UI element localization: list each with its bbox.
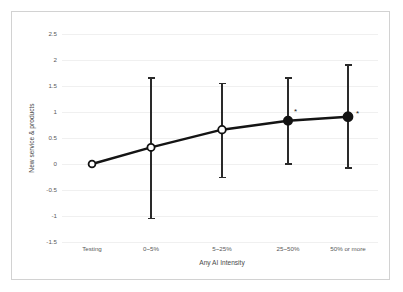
gridlines bbox=[62, 34, 378, 242]
y-tick-label: 0.5 bbox=[48, 134, 57, 141]
significance-asterisk: * bbox=[294, 107, 297, 116]
line-chart-plot: 2.5 2 1.5 1 0.5 0 -0.5 -1 -1.5 New servi… bbox=[0, 0, 403, 292]
x-tick-label: Testing bbox=[82, 245, 102, 252]
x-tick-label: 0~5% bbox=[143, 245, 159, 252]
y-tick-label: 2 bbox=[54, 56, 58, 63]
x-tick-label: 25~50% bbox=[277, 245, 300, 252]
data-point-marker bbox=[218, 126, 226, 134]
y-tick-label: 1 bbox=[54, 108, 58, 115]
y-tick-label: 1.5 bbox=[48, 82, 57, 89]
data-point-marker bbox=[89, 161, 96, 168]
chart-figure: 2.5 2 1.5 1 0.5 0 -0.5 -1 -1.5 New servi… bbox=[0, 0, 403, 292]
y-tick-label: -0.5 bbox=[46, 186, 57, 193]
x-tick-label: 5~25% bbox=[212, 245, 232, 252]
y-axis-title: New service & products bbox=[28, 103, 36, 173]
data-point-marker bbox=[147, 144, 154, 151]
y-tick-label: -1 bbox=[51, 212, 57, 219]
y-tick-label: 0 bbox=[54, 160, 58, 167]
significance-asterisk: * bbox=[356, 109, 359, 118]
data-markers bbox=[89, 112, 353, 167]
x-tick-label: 50% or more bbox=[330, 245, 366, 252]
x-axis-tick-labels: Testing 0~5% 5~25% 25~50% 50% or more bbox=[82, 245, 366, 252]
y-tick-label: 2.5 bbox=[48, 30, 57, 37]
series-line bbox=[92, 117, 348, 164]
data-point-marker bbox=[284, 117, 292, 125]
y-tick-label: -1.5 bbox=[46, 238, 57, 245]
x-axis-title: Any AI Intensity bbox=[199, 259, 245, 267]
y-axis-tick-labels: 2.5 2 1.5 1 0.5 0 -0.5 -1 -1.5 bbox=[46, 30, 57, 245]
error-bars bbox=[148, 65, 352, 218]
data-point-marker bbox=[343, 112, 352, 121]
